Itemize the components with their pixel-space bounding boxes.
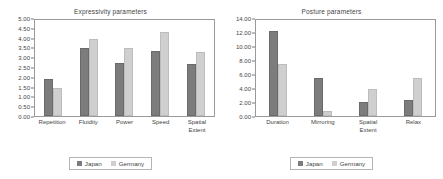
y-axis: 14.0012.0010.008.006.004.002.000.00 bbox=[221, 19, 255, 117]
x-axis-label: Repetition bbox=[34, 119, 70, 134]
legend-label: Japan bbox=[85, 160, 102, 167]
y-axis-tick-label: 0.00 bbox=[239, 114, 251, 120]
y-axis-tick-label: 2.00 bbox=[239, 100, 251, 106]
legend: JapanGermany bbox=[221, 157, 442, 170]
bar-germany bbox=[323, 111, 332, 116]
bar-germany bbox=[413, 78, 422, 116]
bar-germany bbox=[160, 32, 169, 116]
y-axis-tick-label: 14.00 bbox=[236, 16, 251, 22]
x-axis-label: Spatial Extent bbox=[179, 119, 215, 134]
bar-japan bbox=[187, 64, 196, 116]
x-axis-label: Power bbox=[106, 119, 142, 134]
bar-germany bbox=[196, 52, 205, 116]
chart-panel-posture: Posture parameters 14.0012.0010.008.006.… bbox=[221, 0, 442, 179]
legend-label: Germany bbox=[119, 160, 144, 167]
bar-group bbox=[35, 20, 71, 116]
bar-group bbox=[346, 20, 391, 116]
y-axis-tick-label: 4.50 bbox=[18, 26, 30, 32]
legend-item: Germany bbox=[332, 160, 365, 167]
legend-swatch-icon bbox=[77, 161, 82, 166]
bars-container bbox=[35, 20, 214, 116]
y-axis-tick-label: 12.00 bbox=[236, 30, 251, 36]
x-axis-label: Relax bbox=[391, 119, 436, 134]
bar-japan bbox=[80, 48, 89, 116]
legend-item: Japan bbox=[77, 160, 102, 167]
y-axis-tick-label: 1.50 bbox=[18, 85, 30, 91]
bar-germany bbox=[278, 64, 287, 117]
x-axis-label: Fluidity bbox=[70, 119, 106, 134]
bars-container bbox=[256, 20, 435, 116]
bar-japan bbox=[44, 79, 53, 116]
y-axis-tick-label: 8.00 bbox=[239, 58, 251, 64]
x-axis-label: Mirroring bbox=[300, 119, 345, 134]
y-axis-tick-label: 5.00 bbox=[18, 16, 30, 22]
bar-group bbox=[71, 20, 107, 116]
y-axis: 5.004.504.003.503.002.502.001.501.000.50… bbox=[0, 19, 34, 117]
bar-group bbox=[142, 20, 178, 116]
y-axis-tick-label: 1.00 bbox=[18, 94, 30, 100]
dual-bar-chart-figure: Expressivity parameters 5.004.504.003.50… bbox=[0, 0, 443, 179]
y-axis-tick-label: 3.00 bbox=[18, 55, 30, 61]
y-axis-tick-label: 10.00 bbox=[236, 44, 251, 50]
bar-group bbox=[178, 20, 214, 116]
legend-box: JapanGermany bbox=[69, 157, 152, 170]
y-axis-tick-label: 6.00 bbox=[239, 72, 251, 78]
y-axis-tick-label: 0.50 bbox=[18, 104, 30, 110]
x-axis-label: Speed bbox=[143, 119, 179, 134]
x-axis-labels: RepetitionFluidityPowerSpeedSpatial Exte… bbox=[34, 119, 215, 134]
legend-swatch-icon bbox=[111, 161, 116, 166]
legend-swatch-icon bbox=[298, 161, 303, 166]
y-axis-tick-label: 4.00 bbox=[239, 86, 251, 92]
y-axis-tick-label: 3.50 bbox=[18, 45, 30, 51]
legend: JapanGermany bbox=[0, 157, 221, 170]
y-axis-tick-label: 2.50 bbox=[18, 65, 30, 71]
bar-japan bbox=[314, 78, 323, 116]
legend-label: Germany bbox=[340, 160, 365, 167]
bar-group bbox=[107, 20, 143, 116]
bar-japan bbox=[404, 100, 413, 116]
legend-item: Japan bbox=[298, 160, 323, 167]
bar-germany bbox=[124, 48, 133, 116]
chart-panel-expressivity: Expressivity parameters 5.004.504.003.50… bbox=[0, 0, 221, 179]
bar-japan bbox=[359, 102, 368, 116]
x-axis-label: Duration bbox=[255, 119, 300, 134]
legend-item: Germany bbox=[111, 160, 144, 167]
bar-japan bbox=[269, 31, 278, 116]
y-axis-tick-label: 2.00 bbox=[18, 75, 30, 81]
bar-germany bbox=[89, 39, 98, 116]
bar-japan bbox=[151, 51, 160, 116]
plot-area bbox=[255, 19, 436, 117]
plot-area bbox=[34, 19, 215, 117]
bar-germany bbox=[53, 88, 62, 116]
plot-wrapper: 5.004.504.003.503.002.502.001.501.000.50… bbox=[0, 19, 221, 129]
y-axis-tick-label: 4.00 bbox=[18, 36, 30, 42]
plot-wrapper: 14.0012.0010.008.006.004.002.000.00 Dura… bbox=[221, 19, 442, 129]
bar-group bbox=[390, 20, 435, 116]
bar-japan bbox=[115, 63, 124, 116]
legend-label: Japan bbox=[306, 160, 323, 167]
x-axis-label: Spatial Extent bbox=[346, 119, 391, 134]
bar-germany bbox=[368, 89, 377, 116]
x-axis-labels: DurationMirroringSpatial ExtentRelax bbox=[255, 119, 436, 134]
bar-group bbox=[301, 20, 346, 116]
y-axis-tick-label: 0.00 bbox=[18, 114, 30, 120]
legend-swatch-icon bbox=[332, 161, 337, 166]
legend-box: JapanGermany bbox=[290, 157, 373, 170]
chart-title: Posture parameters bbox=[221, 8, 442, 15]
bar-group bbox=[256, 20, 301, 116]
chart-title: Expressivity parameters bbox=[0, 8, 221, 15]
